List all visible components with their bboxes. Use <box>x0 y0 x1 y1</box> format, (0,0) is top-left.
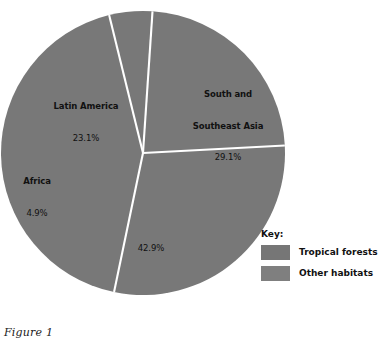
slice-label-latin-america: Latin America 23.1% <box>34 80 138 164</box>
slice-label-latin-america-name: Latin America <box>34 101 138 112</box>
slice-label-south-and-southeast-asia: South and Southeast Asia 29.1% <box>176 68 280 184</box>
legend-item-tropical-forests[interactable]: Tropical forests <box>261 245 377 260</box>
slice-label-africa-name: Africa <box>6 176 68 187</box>
figure-caption: Figure 1 <box>4 326 53 339</box>
slice-label-asia-name-line1: South and <box>176 89 280 100</box>
slice-label-africa-value: 4.9% <box>6 208 68 219</box>
legend-item-other-habitats[interactable]: Other habitats <box>261 266 377 281</box>
slice-label-africa: Africa 4.9% <box>6 155 68 239</box>
legend-label-other-habitats: Other habitats <box>299 268 373 279</box>
slice-label-asia-value: 29.1% <box>176 152 280 163</box>
legend-swatch-tropical-forests <box>261 245 290 260</box>
legend-swatch-other-habitats <box>261 266 290 281</box>
legend-title: Key: <box>261 229 377 240</box>
slice-label-other-value: 42.9% <box>106 243 196 254</box>
slice-label-other-habitats: 42.9% <box>106 222 196 275</box>
slice-label-latin-america-value: 23.1% <box>34 133 138 144</box>
legend: Key: Tropical forests Other habitats <box>261 229 377 287</box>
slice-label-asia-name-line2: Southeast Asia <box>176 121 280 132</box>
legend-label-tropical-forests: Tropical forests <box>299 247 378 258</box>
